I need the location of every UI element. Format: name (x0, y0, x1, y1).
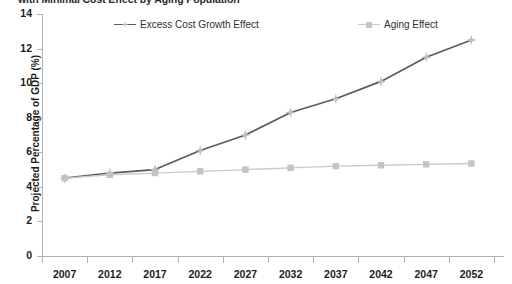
data-point-marker-star[interactable] (195, 145, 205, 155)
data-point-marker-square[interactable] (197, 168, 203, 174)
data-point-marker-star[interactable] (240, 130, 250, 140)
series-line (65, 164, 472, 179)
data-point-marker-star[interactable] (285, 107, 295, 117)
data-point-marker-square[interactable] (423, 161, 429, 167)
data-point-marker-square[interactable] (107, 172, 113, 178)
data-point-marker-star[interactable] (331, 94, 341, 104)
data-point-marker-square[interactable] (378, 162, 384, 168)
data-point-marker-square[interactable] (333, 163, 339, 169)
data-point-marker-star[interactable] (421, 52, 431, 62)
data-point-marker-square[interactable] (468, 160, 474, 166)
data-point-marker-star[interactable] (466, 35, 476, 45)
data-point-marker-square[interactable] (242, 166, 248, 172)
series-aging-effect (61, 160, 474, 181)
chart-container: with Minimal Cost Effect by Aging Popula… (0, 0, 512, 284)
series-excess-cost-growth-effect (59, 35, 476, 184)
data-point-marker-star[interactable] (376, 76, 386, 86)
data-point-marker-square[interactable] (152, 170, 158, 176)
data-point-marker-square[interactable] (287, 165, 293, 171)
chart-plot-area (0, 0, 512, 284)
data-point-marker-square[interactable] (61, 175, 67, 181)
series-line (65, 40, 472, 178)
